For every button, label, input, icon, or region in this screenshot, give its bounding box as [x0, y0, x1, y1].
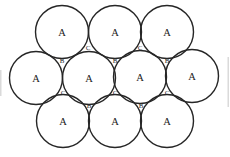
- site-label-b: B: [87, 102, 92, 110]
- site-label-c: C: [113, 89, 118, 97]
- atom-label: A: [85, 73, 93, 84]
- site-label-c: C: [138, 44, 143, 52]
- scan-artifact-right: [228, 57, 230, 107]
- atom-label: A: [32, 73, 40, 84]
- site-label-b: B: [165, 57, 170, 65]
- site-label-b: B: [113, 57, 118, 65]
- atom-label: A: [58, 27, 66, 38]
- figure-canvas: AAAAAAAAAACCBBBCCCBB: [0, 0, 230, 157]
- site-label-b: B: [60, 57, 65, 65]
- site-label-c: C: [61, 89, 66, 97]
- atom-label: A: [136, 72, 144, 83]
- scan-artifact-left: [0, 70, 2, 96]
- site-label-b: B: [139, 102, 144, 110]
- atom-label: A: [59, 116, 67, 127]
- site-label-c: C: [86, 44, 91, 52]
- site-label-c: C: [165, 89, 170, 97]
- atom-label: A: [163, 116, 171, 127]
- atom-label: A: [163, 27, 171, 38]
- atom-label: A: [111, 116, 119, 127]
- packing-diagram: AAAAAAAAAACCBBBCCCBB: [0, 0, 230, 157]
- atom-label: A: [188, 71, 196, 82]
- atom-label: A: [111, 27, 119, 38]
